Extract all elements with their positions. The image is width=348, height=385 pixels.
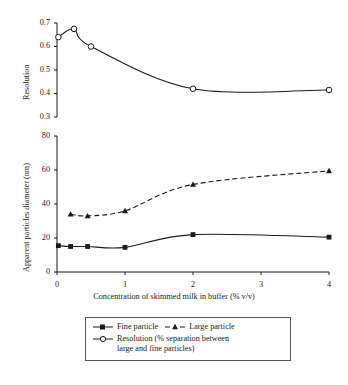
legend-label-resolution-block: Resolution (% separation between large a… <box>117 334 229 354</box>
legend: Fine particle Large particle Resolution … <box>85 317 291 361</box>
legend-label-resolution-line1: Resolution (% separation between <box>117 334 229 343</box>
resolution-key-icon <box>92 334 114 344</box>
legend-label-resolution-line2: large and fine particles) <box>117 344 194 353</box>
bottom-panel-series <box>56 168 332 250</box>
legend-row-2: Resolution (% separation between large a… <box>92 334 284 354</box>
bottom-panel-axis <box>54 136 329 275</box>
figure-container: Resolution 0.7 0.6 0.5 0.4 0.3 Apparent … <box>0 0 348 385</box>
legend-label-large-particle: Large particle <box>189 322 235 332</box>
legend-row-1: Fine particle Large particle <box>92 322 284 332</box>
fine-particle-key-icon <box>92 322 114 332</box>
large-particle-key-icon <box>164 322 186 332</box>
legend-label-fine-particle: Fine particle <box>117 322 158 332</box>
